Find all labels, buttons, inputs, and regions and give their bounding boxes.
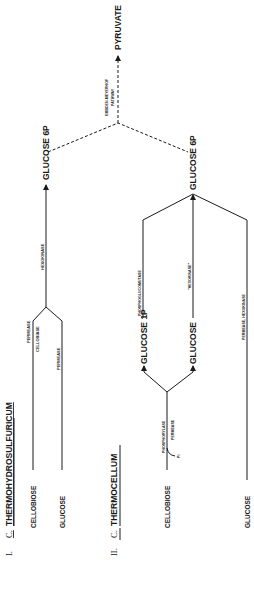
- section-2-pi: Pi: [177, 455, 181, 458]
- section-2-numeral: II.: [109, 548, 119, 556]
- section-1-cellobiose: CELLOBIOSE: [30, 485, 37, 528]
- section-2-permease: PERMEASE: [171, 419, 175, 440]
- section-2-phosphorylase: PHOSPHORYLASE: [162, 420, 166, 453]
- section-2-hexokinase-quoted: "HEXOKINASE": [188, 263, 192, 290]
- section-1-cellobiase: CELLOBIASE: [35, 326, 40, 352]
- section-1-hexokinase: HEXOKINASE: [40, 243, 45, 270]
- section-1-glucose: GLUCOSE: [59, 495, 66, 528]
- section-1-glucose-6p: GLUCOSE 6P: [41, 125, 51, 180]
- section-2-glucose-intermediate: GLUCOSE: [188, 322, 198, 364]
- section-2-glucose: GLUCOSE: [244, 495, 251, 528]
- section-2-cellobiose: CELLOBIOSE: [164, 485, 171, 528]
- section-2-glucose-6p: GLUCOSE 6P: [188, 135, 198, 190]
- converge-1: [33, 307, 62, 321]
- section-1-cellobiose-permease: PERMEASE: [26, 320, 31, 343]
- fork-2: [144, 372, 193, 392]
- section-1-genus: C.: [4, 530, 14, 538]
- metabolic-pathway-diagram: I. C. THERMOHYDROSULFURICUM CELLOBIOSE G…: [0, 0, 254, 590]
- section-1-glucose-permease: PERMEASE: [56, 347, 61, 370]
- emp-pathway-label-line1: EMBDEN-MEYERHOF: [105, 78, 109, 116]
- section-2-genus: C.: [109, 530, 119, 538]
- pyruvate-label: PYRUVATE: [113, 5, 123, 50]
- section-1-species: THERMOHYDROSULFURICUM: [4, 402, 14, 526]
- dashed-converge: [48, 123, 188, 152]
- section-2-glucose-1p: GLUCOSE 1P: [139, 309, 149, 364]
- emp-pathway-lines: [48, 56, 188, 152]
- pi-curve: [167, 448, 175, 456]
- section-2-phosphoglucomutase: PHOSPHOGLUCOMUTASE: [138, 270, 142, 316]
- section-2-species: THERMOCELLUM: [109, 454, 119, 526]
- section-2-permease-hexokinase: PERMEASE, HEXOKINASE: [242, 293, 246, 340]
- section-1-numeral: I.: [4, 551, 14, 556]
- emp-pathway-label-line2: PATHWAY: [111, 88, 115, 106]
- converge-2: [143, 194, 247, 220]
